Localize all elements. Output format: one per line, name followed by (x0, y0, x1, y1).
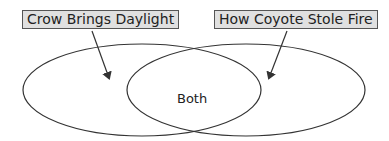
left-set-label: Crow Brings Daylight (22, 10, 179, 29)
intersection-label: Both (177, 91, 207, 106)
right-ellipse (127, 44, 365, 136)
right-set-label: How Coyote Stole Fire (214, 10, 378, 29)
right-arrow (269, 31, 287, 78)
left-arrow (92, 31, 109, 78)
left-ellipse (23, 44, 261, 136)
